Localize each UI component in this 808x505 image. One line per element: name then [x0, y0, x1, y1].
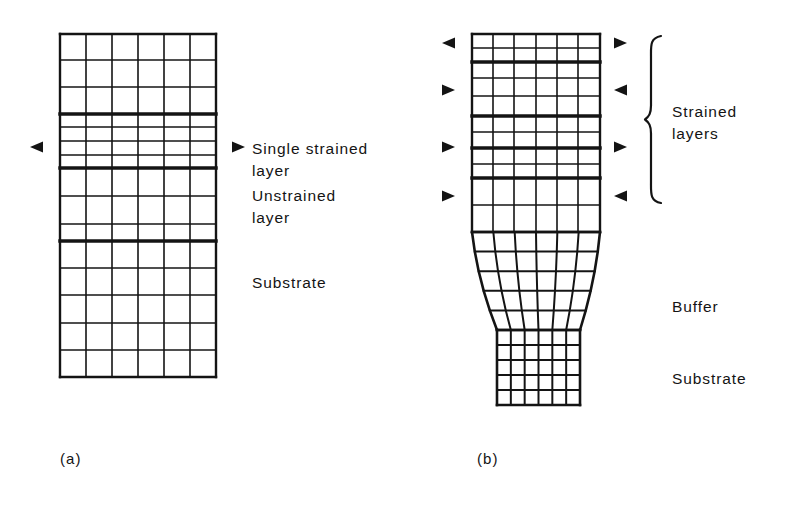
label-substrate-line-1: Substrate: [252, 272, 326, 294]
right-arrow-strained-layer: [232, 142, 245, 153]
label-substrate-b: Substrate: [672, 368, 746, 390]
figure-canvas: Single strainedlayerUnstrainedlayerSubst…: [0, 0, 808, 505]
label-strained-layers: Strainedlayers: [672, 101, 737, 146]
panel-b-buffer-grid-vline: [472, 232, 497, 330]
right-arrow-strained-1: [614, 38, 627, 49]
left-arrow-strained-3: [442, 142, 455, 153]
label-single-strained-layer: Single strainedlayer: [252, 138, 368, 183]
diagram-artwork: [0, 0, 808, 505]
label-single-strained-layer-line-1: Single strained: [252, 138, 368, 160]
panel-caption-a: (a): [60, 450, 82, 467]
label-buffer: Buffer: [672, 296, 718, 318]
label-unstrained-layer-line-1: Unstrained: [252, 185, 336, 207]
label-unstrained-layer: Unstrainedlayer: [252, 185, 336, 230]
label-single-strained-layer-line-2: layer: [252, 160, 368, 182]
left-arrow-strained-2: [442, 85, 455, 96]
left-arrow-strained-1: [442, 38, 455, 49]
panel-b-buffer-grid-vline: [566, 232, 579, 330]
panel-b-buffer-grid-vline: [536, 232, 539, 330]
right-arrow-strained-2: [614, 85, 627, 96]
panel-b-buffer-grid-vline: [515, 232, 525, 330]
left-arrow-strained-layer: [30, 142, 43, 153]
label-substrate: Substrate: [252, 272, 326, 294]
label-strained-layers-line-1: Strained: [672, 101, 737, 123]
strained-layers-brace: [645, 36, 661, 203]
label-buffer-line-1: Buffer: [672, 296, 718, 318]
label-substrate-b-line-1: Substrate: [672, 368, 746, 390]
panel-b-buffer-grid-vline: [552, 232, 557, 330]
panel-b-buffer-grid-vline: [493, 232, 511, 330]
label-unstrained-layer-line-2: layer: [252, 207, 336, 229]
left-arrow-strained-4: [442, 191, 455, 202]
label-strained-layers-line-2: layers: [672, 123, 737, 145]
right-arrow-strained-4: [614, 191, 627, 202]
right-arrow-strained-3: [614, 142, 627, 153]
panel-caption-b: (b): [477, 450, 499, 467]
panel-b-buffer-grid-vline: [580, 232, 600, 330]
